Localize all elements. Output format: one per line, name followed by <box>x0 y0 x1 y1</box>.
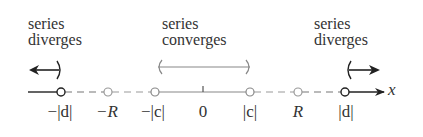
right-diverge-arrow-icon <box>348 61 380 79</box>
tick-label-pos-R: R <box>293 103 303 121</box>
neg-d-open-circle-icon <box>57 88 65 96</box>
axis-variable-label: x <box>388 80 396 100</box>
tick-label-neg-d: −|d| <box>48 103 73 121</box>
pos-c-open-circle-icon <box>246 88 254 96</box>
tick-label-neg-c: −|c| <box>141 103 165 121</box>
x-axis <box>28 86 384 92</box>
tick-label-neg-R: −R <box>96 103 118 121</box>
converge-interval-bracket-icon <box>158 60 250 74</box>
tick-label-pos-c: |c| <box>243 103 257 121</box>
tick-label-pos-d: |d| <box>338 103 353 121</box>
neg-c-open-circle-icon <box>151 88 159 96</box>
pos-R-open-circle-icon <box>294 88 302 96</box>
tick-label-zero: 0 <box>199 103 208 121</box>
pos-d-open-circle-icon <box>341 88 349 96</box>
neg-R-open-circle-icon <box>104 88 112 96</box>
left-diverge-arrow-icon <box>29 61 60 79</box>
